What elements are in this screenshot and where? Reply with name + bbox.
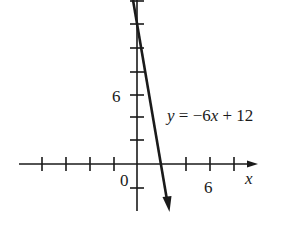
- x-tick-label-6: 6: [204, 178, 213, 197]
- eq-y: y: [165, 106, 175, 125]
- origin-label: 0: [120, 171, 129, 190]
- graph-canvas: 6 0 6 x y = −6x + 12: [0, 0, 293, 226]
- x-axis-label: x: [244, 169, 253, 188]
- equation-label: y = −6x + 12: [165, 106, 253, 125]
- y-tick-label-6: 6: [112, 87, 121, 106]
- x-axis-arrow-icon: [247, 161, 258, 168]
- eq-mid: = −6: [175, 106, 211, 125]
- eq-end: + 12: [218, 106, 253, 125]
- line-series: [133, 0, 172, 212]
- line-arrow-icon: [163, 196, 172, 212]
